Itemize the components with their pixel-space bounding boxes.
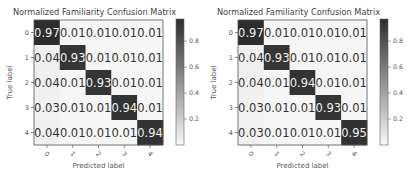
cell-value-label: 0.01 [137,51,163,65]
x-tick-label: 1 [68,150,77,159]
y-axis-label: True label [6,65,14,100]
cell-value-label: 0.01 [137,26,163,40]
cell-value-label: 0.01 [264,101,290,115]
cell-value-label: 0.93 [60,51,86,65]
x-tick-label: 2 [94,150,103,159]
cell-value-label: 0.01 [86,26,112,40]
cell-value-label: 0.04 [34,51,60,65]
cell-value-label: 0.01 [290,101,316,115]
cell-value-label: 0.03 [238,101,264,115]
cell-value-label: 0.01 [315,26,341,40]
chart-svg-left: Normalized Familiarity Confusion Matrix0… [0,0,203,177]
cell-value-label: 0.94 [111,101,137,115]
colorbar-tick-label: 0.6 [393,63,403,70]
cell-value-label: 0.93 [86,76,112,90]
cell-value-label: 0.01 [86,101,112,115]
cell-value-label: 0.01 [86,126,112,140]
cell-value-label: 0.01 [264,76,290,90]
cell-value-label: 0.95 [341,126,367,140]
y-tick-label: 1 [229,54,233,62]
y-tick-label: 0 [229,29,233,37]
cell-value-label: 0.04 [238,51,264,65]
cell-value-label: 0.01 [341,101,367,115]
cell-value-label: 0.01 [111,26,137,40]
cell-value-label: 0.93 [315,101,341,115]
y-tick-label: 0 [25,29,29,37]
y-tick-label: 4 [229,129,233,137]
colorbar-tick-label: 0.6 [189,63,199,70]
x-tick-label: 2 [298,150,307,159]
cell-value-label: 0.04 [34,126,60,140]
y-tick-label: 1 [25,54,29,62]
colorbar-tick-label: 0.2 [393,115,403,122]
cell-value-label: 0.01 [60,101,86,115]
x-tick-label: 3 [120,150,129,159]
x-axis-label: Predicted label [72,162,124,170]
cell-value-label: 0.01 [264,26,290,40]
cell-value-label: 0.97 [34,26,60,40]
cell-value-label: 0.01 [341,26,367,40]
colorbar [176,19,184,145]
x-axis-label: Predicted label [276,162,328,170]
cell-value-label: 0.01 [290,51,316,65]
colorbar-tick-label: 0.8 [189,37,199,44]
chart-title: Normalized Familiarity Confusion Matrix [13,7,176,17]
cell-value-label: 0.01 [60,126,86,140]
cell-value-label: 0.01 [111,51,137,65]
cell-value-label: 0.01 [290,26,316,40]
x-tick-label: 0 [247,150,256,159]
cell-value-label: 0.01 [111,76,137,90]
cell-value-label: 0.01 [315,51,341,65]
cell-value-label: 0.01 [341,76,367,90]
cell-value-label: 0.01 [315,76,341,90]
y-tick-label: 4 [25,129,29,137]
colorbar-tick-label: 0.2 [189,115,199,122]
cell-value-label: 0.94 [290,76,316,90]
x-tick-label: 0 [43,150,52,159]
colorbar-tick-label: 0.8 [393,37,403,44]
cell-value-label: 0.01 [290,126,316,140]
cell-value-label: 0.01 [111,126,137,140]
cell-value-label: 0.04 [34,76,60,90]
x-tick-label: 4 [350,150,359,159]
cell-value-label: 0.01 [341,51,367,65]
colorbar-tick-label: 0.4 [393,89,403,96]
cell-value-label: 0.01 [264,126,290,140]
cell-value-label: 0.94 [137,126,163,140]
y-tick-label: 2 [229,79,233,87]
y-tick-label: 3 [229,104,233,112]
colorbar-tick-label: 0.4 [189,89,199,96]
chart-title: Normalized Familiarity Confusion Matrix [217,7,380,17]
cell-value-label: 0.01 [137,76,163,90]
confusion-matrix-left: Normalized Familiarity Confusion Matrix0… [0,0,203,177]
cell-value-label: 0.01 [137,101,163,115]
confusion-matrix-right: Normalized Familiarity Confusion Matrix0… [204,0,407,177]
x-tick-label: 4 [146,150,155,159]
cell-value-label: 0.03 [34,101,60,115]
cell-value-label: 0.01 [60,76,86,90]
cell-value-label: 0.97 [238,26,264,40]
cell-value-label: 0.93 [264,51,290,65]
y-axis-label: True label [210,65,218,100]
colorbar [380,19,388,145]
cell-value-label: 0.03 [238,126,264,140]
cell-value-label: 0.01 [60,26,86,40]
x-tick-label: 1 [272,150,281,159]
cell-value-label: 0.01 [86,51,112,65]
x-tick-label: 3 [324,150,333,159]
y-tick-label: 2 [25,79,29,87]
y-tick-label: 3 [25,104,29,112]
chart-svg-right: Normalized Familiarity Confusion Matrix0… [204,0,407,177]
cell-value-label: 0.01 [315,126,341,140]
cell-value-label: 0.04 [238,76,264,90]
